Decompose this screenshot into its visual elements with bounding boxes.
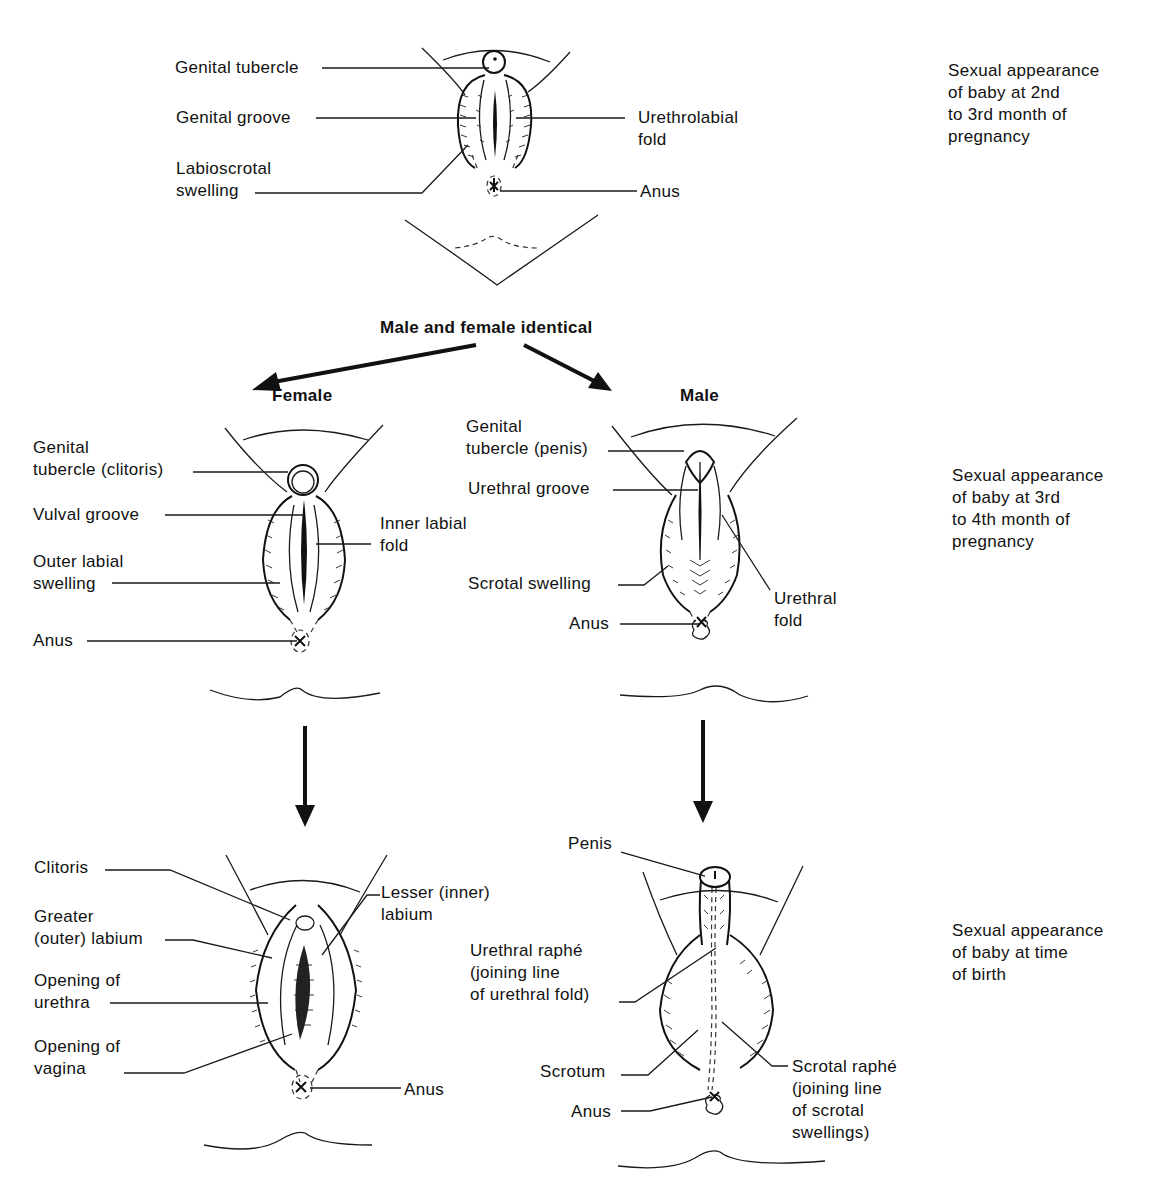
label-urethral-fold: Urethral fold [774, 588, 837, 632]
label-urethrolabial-fold: Urethrolabial fold [638, 107, 738, 151]
stage-note-time-of-birth: Sexual appearance of baby at time of bir… [952, 920, 1104, 986]
label-vulval-groove: Vulval groove [33, 504, 139, 526]
female-birth-drawing [105, 855, 401, 1149]
label-clitoris: Clitoris [34, 857, 88, 879]
label-genital-groove: Genital groove [176, 107, 291, 129]
heading-male-female-identical: Male and female identical [380, 317, 593, 339]
label-anus-stage1: Anus [640, 181, 680, 203]
down-arrows [295, 720, 713, 827]
stage-note-3rd-4th-month: Sexual appearance of baby at 3rd to 4th … [952, 465, 1104, 553]
label-anus-male-birth: Anus [571, 1101, 611, 1123]
diagram-drawings [0, 0, 1159, 1196]
label-lesser-labium: Lesser (inner) labium [381, 882, 490, 926]
label-urethral-groove: Urethral groove [468, 478, 590, 500]
indifferent-stage-drawing [255, 48, 637, 285]
label-labioscrotal-swelling: Labioscrotal swelling [176, 158, 271, 202]
label-scrotal-swelling: Scrotal swelling [468, 573, 591, 595]
embryology-diagram: Genital tubercle Genital groove Labioscr… [0, 0, 1159, 1196]
label-urethral-raphe: Urethral raphé (joining line of urethral… [470, 940, 589, 1006]
male-stage2-drawing [608, 418, 808, 702]
label-genital-tubercle: Genital tubercle [175, 57, 299, 79]
label-anus-female-stage2: Anus [33, 630, 73, 652]
label-scrotum: Scrotum [540, 1061, 605, 1083]
label-outer-labial-swelling: Outer labial swelling [33, 551, 124, 595]
heading-female: Female [272, 385, 332, 407]
label-genital-tubercle-penis: Genital tubercle (penis) [466, 416, 588, 460]
label-opening-of-urethra: Opening of urethra [34, 970, 120, 1014]
heading-male: Male [680, 385, 719, 407]
label-scrotal-raphe: Scrotal raphé (joining line of scrotal s… [792, 1056, 897, 1144]
label-penis: Penis [568, 833, 612, 855]
label-anus-female-birth: Anus [404, 1079, 444, 1101]
label-opening-of-vagina: Opening of vagina [34, 1036, 120, 1080]
stage-note-2nd-3rd-month: Sexual appearance of baby at 2nd to 3rd … [948, 60, 1100, 148]
label-genital-tubercle-clitoris: Genital tubercle (clitoris) [33, 437, 163, 481]
label-anus-male-stage2: Anus [569, 613, 609, 635]
label-inner-labial-fold: Inner labial fold [380, 513, 467, 557]
label-greater-labium: Greater (outer) labium [34, 906, 143, 950]
